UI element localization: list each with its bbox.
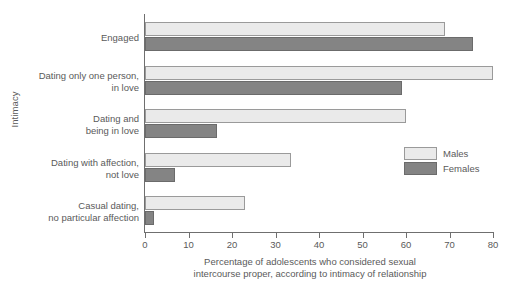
bar-females-casual-dating-no-particular-affection [145, 211, 154, 225]
x-axis-tick-10 [189, 233, 190, 238]
x-axis-tick-label-70: 70 [438, 239, 462, 250]
category-label-dating-only-one-person-in-love: Dating only one person, in love [0, 70, 139, 93]
bar-females-dating-only-one-person-in-love [145, 81, 402, 95]
legend-swatch-females [404, 162, 437, 175]
bar-chart: Intimacy Engaged Dating only one person,… [0, 0, 507, 296]
x-axis-tick-label-20: 20 [220, 239, 244, 250]
bar-males-dating-only-one-person-in-love [145, 66, 493, 80]
category-label-dating-with-affection-not-love: Dating with affection, not love [0, 157, 139, 180]
x-axis-tick-label-10: 10 [177, 239, 201, 250]
legend-item-females: Females [404, 161, 479, 176]
x-axis-tick-0 [145, 233, 146, 238]
x-axis-caption: Percentage of adolescents who considered… [110, 256, 507, 280]
x-axis-tick-label-60: 60 [394, 239, 418, 250]
x-axis-tick-label-40: 40 [307, 239, 331, 250]
legend-swatch-males [404, 147, 437, 160]
x-axis-tick-60 [406, 233, 407, 238]
x-axis-tick-50 [363, 233, 364, 238]
bar-females-dating-with-affection-not-love [145, 168, 175, 182]
x-axis-tick-label-80: 80 [481, 239, 505, 250]
x-axis-tick-label-30: 30 [264, 239, 288, 250]
x-axis-tick-30 [276, 233, 277, 238]
x-axis-tick-label-50: 50 [351, 239, 375, 250]
category-label-casual-dating-no-particular-affection: Casual dating, no particular affection [0, 200, 139, 223]
x-axis-tick-70 [450, 233, 451, 238]
legend-label-females: Females [443, 163, 479, 174]
bar-males-casual-dating-no-particular-affection [145, 196, 245, 210]
x-axis-caption-line-2: intercourse proper, according to intimac… [110, 268, 507, 280]
legend-item-males: Males [404, 146, 479, 161]
legend: Males Females [404, 146, 479, 176]
bar-males-engaged [145, 22, 445, 36]
x-axis-caption-line-1: Percentage of adolescents who considered… [110, 256, 507, 268]
x-axis-tick-label-0: 0 [133, 239, 157, 250]
bar-males-dating-and-being-in-love [145, 109, 406, 123]
category-label-dating-and-being-in-love: Dating and being in love [0, 113, 139, 136]
bar-females-dating-and-being-in-love [145, 124, 217, 138]
x-axis-tick-80 [493, 233, 494, 238]
legend-label-males: Males [443, 148, 468, 159]
category-label-engaged: Engaged [0, 32, 139, 44]
bar-females-engaged [145, 37, 473, 51]
bar-males-dating-with-affection-not-love [145, 153, 291, 167]
x-axis-tick-20 [232, 233, 233, 238]
x-axis-tick-40 [319, 233, 320, 238]
